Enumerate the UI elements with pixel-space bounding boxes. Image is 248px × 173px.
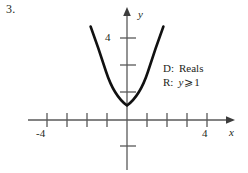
x-axis-label: x [229,126,234,138]
domain-key: D: [163,62,174,74]
range-key: R: [163,76,173,88]
domain-value: Reals [179,62,203,74]
y-axis-label: y [138,8,143,20]
x-tick-label-positive-4: 4 [202,127,208,139]
x-tick-label-negative-4: -4 [36,127,45,139]
range-value: 1 [194,76,200,88]
y-axis-ticks [120,38,136,146]
range-annotation-line: R:y⩾1 [163,75,203,89]
range-relation-symbol: ⩾ [183,76,194,88]
domain-range-annotation: D:Reals R:y⩾1 [163,61,203,89]
figure-container: 3. x y -4 4 [0,0,248,173]
x-axis-arrow-icon [226,116,235,124]
coordinate-graph [0,0,248,173]
domain-annotation-line: D:Reals [163,61,203,75]
y-tick-label-4: 4 [105,31,111,43]
y-axis-arrow-icon [123,7,131,16]
